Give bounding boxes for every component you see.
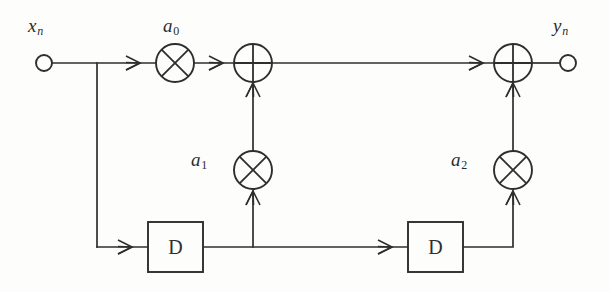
wire-delay2-to-gain-a2 xyxy=(463,191,513,247)
input-signal-label-base: x xyxy=(28,15,37,36)
summing-junction-1[interactable] xyxy=(234,44,272,82)
delay-block-2-label: D xyxy=(428,236,442,258)
input-signal-label: xn xyxy=(28,16,43,35)
output-signal-label-base: y xyxy=(553,15,562,36)
gain-a2-label: a2 xyxy=(451,150,467,169)
gain-a2-label-sub: 2 xyxy=(461,158,467,172)
summing-junction-2[interactable] xyxy=(494,44,532,82)
gain-a1[interactable] xyxy=(234,151,272,189)
input-node[interactable] xyxy=(36,55,52,71)
output-signal-label-sub: n xyxy=(562,24,568,38)
delay-block-1[interactable]: D xyxy=(148,222,203,272)
signal-flow-diagram: D D xn yn a0 a1 a2 xyxy=(0,0,610,292)
gain-a0-label-sub: 0 xyxy=(173,24,179,38)
delay-block-1-label: D xyxy=(168,236,182,258)
gain-a1-label-sub: 1 xyxy=(201,158,207,172)
flow-graph-canvas: D D xyxy=(0,0,610,292)
gain-a2-label-base: a xyxy=(451,149,461,170)
gain-a2[interactable] xyxy=(494,151,532,189)
output-signal-label: yn xyxy=(553,16,568,35)
gain-a1-label: a1 xyxy=(191,150,207,169)
input-signal-label-sub: n xyxy=(37,24,43,38)
gain-a0-label: a0 xyxy=(163,16,179,35)
gain-a0-label-base: a xyxy=(163,15,173,36)
delay-block-2[interactable]: D xyxy=(408,222,463,272)
gain-a0[interactable] xyxy=(156,44,194,82)
output-node[interactable] xyxy=(560,55,576,71)
gain-a1-label-base: a xyxy=(191,149,201,170)
